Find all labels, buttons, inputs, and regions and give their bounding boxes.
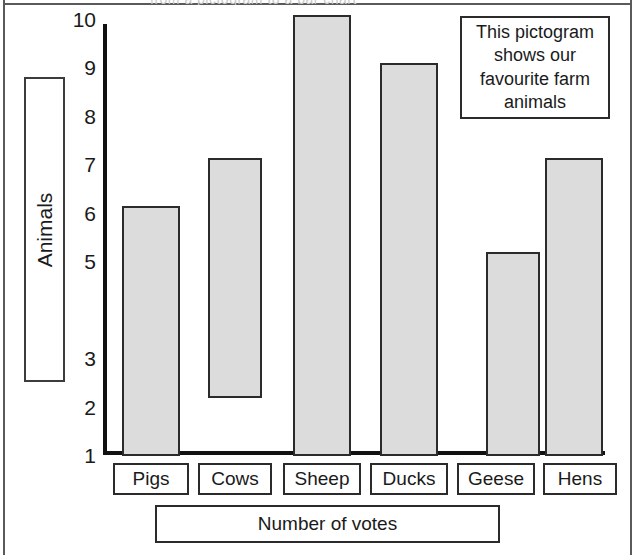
category-label-text: Cows (211, 468, 259, 490)
annotation-note-text: This pictogram shows our favourite farm … (468, 21, 602, 113)
chart-page: from a pictogram to a bar chart 10987653… (0, 0, 634, 555)
category-label-text: Hens (558, 468, 602, 490)
y-axis-title-box: Animals (24, 77, 65, 382)
category-label-hens: Hens (543, 463, 617, 495)
y-tick-label-1: 1 (70, 444, 96, 468)
x-axis-title-label: Number of votes (258, 513, 397, 535)
bar-ducks (380, 63, 438, 456)
y-tick-label-6: 6 (70, 202, 96, 226)
y-tick-label-10: 10 (70, 8, 96, 32)
y-axis-title-label: Animals (33, 192, 57, 267)
y-tick-label-5: 5 (70, 250, 96, 274)
y-axis-line (103, 24, 107, 454)
category-label-text: Geese (468, 468, 524, 490)
y-tick-label-8: 8 (70, 105, 96, 129)
category-label-ducks: Ducks (370, 463, 448, 495)
category-label-text: Ducks (383, 468, 436, 490)
annotation-note-box: This pictogram shows our favourite farm … (460, 16, 610, 119)
bar-pigs (122, 206, 180, 456)
plot-area: 1098765321 Animals PigsCowsSheepDucksGee… (0, 0, 634, 555)
y-tick-label-3: 3 (70, 347, 96, 371)
y-tick-label-9: 9 (70, 56, 96, 80)
category-label-text: Sheep (295, 468, 350, 490)
x-axis-title-box: Number of votes (155, 505, 500, 543)
category-label-pigs: Pigs (113, 463, 189, 495)
category-label-sheep: Sheep (283, 463, 361, 495)
y-tick-label-7: 7 (70, 153, 96, 177)
bar-cows (208, 158, 262, 398)
y-tick-label-2: 2 (70, 396, 96, 420)
category-label-cows: Cows (198, 463, 272, 495)
category-label-text: Pigs (133, 468, 170, 490)
bar-hens (545, 158, 603, 456)
category-label-geese: Geese (457, 463, 535, 495)
bar-geese (486, 252, 540, 456)
bar-sheep (293, 15, 351, 456)
